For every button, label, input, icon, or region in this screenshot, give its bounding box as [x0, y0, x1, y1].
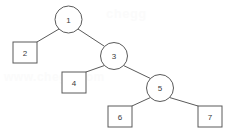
- node-label-2: 2: [23, 49, 28, 58]
- tree-edge-n3-n5: [124, 66, 151, 79]
- tree-node-3[interactable]: 3: [101, 43, 128, 70]
- tree-edge-n1-n3: [78, 29, 104, 46]
- node-label-7: 7: [208, 113, 213, 122]
- node-label-5: 5: [158, 84, 163, 93]
- tree-edge-n5-n7: [170, 98, 199, 107]
- tree-node-1[interactable]: 1: [55, 6, 82, 33]
- tree-node-4[interactable]: 4: [62, 72, 86, 93]
- tree-edge-n5-n6: [132, 98, 151, 107]
- tree-canvas: 1234567: [0, 0, 235, 136]
- tree-node-2[interactable]: 2: [13, 42, 37, 63]
- node-label-6: 6: [118, 113, 123, 122]
- binary-tree-figure: chegg www.chegg.com 1234567: [0, 0, 235, 136]
- tree-edge-n1-n2: [37, 29, 59, 42]
- tree-node-6[interactable]: 6: [108, 106, 132, 127]
- nodes-group: 1234567: [13, 6, 222, 127]
- node-label-1: 1: [66, 16, 71, 25]
- tree-node-7[interactable]: 7: [198, 106, 222, 127]
- tree-node-5[interactable]: 5: [147, 75, 174, 102]
- tree-edge-n3-n4: [86, 66, 105, 73]
- node-label-4: 4: [72, 79, 77, 88]
- node-label-3: 3: [112, 52, 117, 61]
